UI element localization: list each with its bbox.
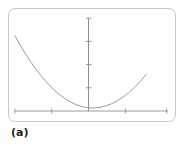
plot-svg	[9, 9, 175, 121]
parabola-curve	[15, 36, 146, 108]
figure-container: (a)	[0, 0, 184, 149]
figure-caption: (a)	[11, 126, 28, 139]
plot-frame	[8, 8, 176, 122]
